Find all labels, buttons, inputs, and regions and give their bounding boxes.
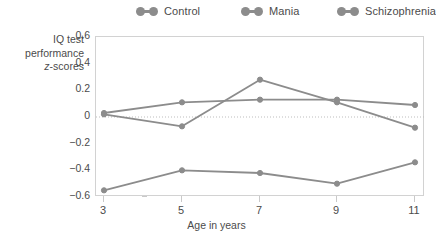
x-tick-mark	[336, 196, 337, 202]
x-tick-label: 11	[399, 204, 429, 216]
x-tick-mark	[414, 196, 415, 202]
x-tick-label: 5	[166, 204, 196, 216]
x-tick-label: 3	[88, 204, 118, 216]
x-tick-mark	[181, 196, 182, 202]
x-tick-label: 9	[321, 204, 351, 216]
x-tick-label: 7	[244, 204, 274, 216]
x-axis-title: Age in years	[0, 219, 433, 231]
x-tick-mark	[259, 196, 260, 202]
x-tick-mark	[103, 196, 104, 202]
